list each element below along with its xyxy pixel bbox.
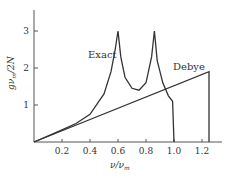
- svg-text:0.2: 0.2: [55, 146, 69, 156]
- svg-text:0.6: 0.6: [111, 146, 126, 156]
- exact-label: Exact: [88, 49, 117, 60]
- chart: 0.20.40.60.81.01.2 123 Exact Debye ν/νm …: [0, 0, 238, 178]
- svg-text:2: 2: [23, 63, 29, 73]
- svg-text:1.2: 1.2: [195, 146, 209, 156]
- debye-curve: [34, 72, 209, 142]
- y-ticks: 123: [23, 26, 38, 110]
- debye-label: Debye: [173, 61, 205, 72]
- svg-text:3: 3: [23, 26, 29, 36]
- x-axis-label: ν/νm: [110, 160, 130, 171]
- exact-curve: [34, 31, 174, 142]
- svg-text:0.8: 0.8: [139, 146, 154, 156]
- y-axis-label: gνm/2N: [6, 55, 17, 90]
- svg-text:1.0: 1.0: [167, 146, 182, 156]
- svg-text:1: 1: [23, 100, 29, 110]
- svg-text:0.4: 0.4: [83, 146, 98, 156]
